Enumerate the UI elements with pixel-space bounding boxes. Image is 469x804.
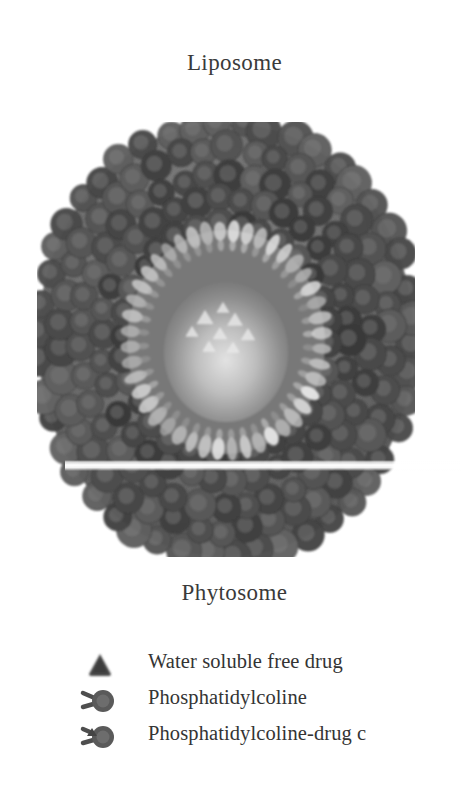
figure-canvas: Liposome bbox=[0, 0, 469, 804]
phytosome-title: Phytosome bbox=[0, 580, 469, 606]
liposome-title: Liposome bbox=[0, 50, 469, 76]
legend-label: Phosphatidylcoline-drug c bbox=[148, 722, 366, 745]
legend: Water soluble free drug Phosphatidylcoli… bbox=[0, 640, 469, 760]
legend-label: Water soluble free drug bbox=[148, 650, 343, 673]
phosphatidylcoline-drug-complex-icon bbox=[78, 720, 122, 754]
vesicle-diagram bbox=[37, 122, 415, 557]
phosphatidylcoline-icon bbox=[78, 684, 122, 718]
free-drug-triangle-icon bbox=[78, 648, 122, 682]
legend-item-phosphatidylcoline: Phosphatidylcoline bbox=[0, 684, 469, 720]
vesicle-svg bbox=[37, 122, 415, 557]
legend-item-free-drug: Water soluble free drug bbox=[0, 648, 469, 684]
legend-item-phosphatidylcoline-drug: Phosphatidylcoline-drug c bbox=[0, 720, 469, 756]
legend-label: Phosphatidylcoline bbox=[148, 686, 307, 709]
